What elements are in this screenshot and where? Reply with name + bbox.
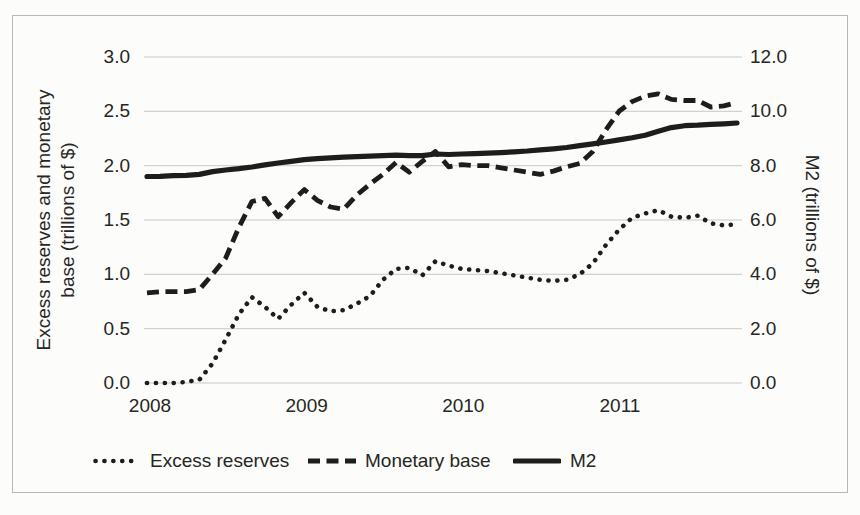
left-axis-title-line2: base (trillions of $): [56, 30, 80, 410]
left-axis-tick-label: 0.0: [84, 372, 130, 394]
left-axis-tick-label: 2.5: [84, 100, 130, 122]
right-axis-tick-label: 4.0: [750, 263, 808, 285]
legend-dashed-line-icon: [308, 455, 356, 467]
legend-item-m2: M2: [513, 449, 596, 473]
left-axis-tick-label: 3.0: [84, 46, 130, 68]
x-axis-tick-label: 2010: [418, 395, 508, 417]
right-axis-tick-label: 12.0: [750, 46, 808, 68]
left-axis-title-line1: Excess reserves and monetary: [32, 30, 56, 410]
series-line-m2: [147, 123, 737, 177]
left-axis-tick-label: 1.5: [84, 209, 130, 231]
left-axis-tick-label: 2.0: [84, 155, 130, 177]
legend-dotted-line-icon: [93, 455, 141, 467]
legend-solid-line-icon: [513, 455, 561, 467]
chart-figure: Excess reserves and monetary base (trill…: [0, 0, 860, 515]
legend-label-excess-reserves: Excess reserves: [150, 449, 289, 473]
left-axis-title: Excess reserves and monetary base (trill…: [32, 30, 80, 410]
right-axis-tick-label: 2.0: [750, 318, 808, 340]
left-axis-tick-label: 0.5: [84, 318, 130, 340]
right-axis-tick-label: 6.0: [750, 209, 808, 231]
x-axis-tick-label: 2009: [262, 395, 352, 417]
legend-label-monetary-base: Monetary base: [365, 449, 491, 473]
legend-item-monetary-base: Monetary base: [308, 449, 491, 473]
right-axis-tick-label: 10.0: [750, 100, 808, 122]
left-axis-tick-label: 1.0: [84, 263, 130, 285]
right-axis-tick-label: 8.0: [750, 155, 808, 177]
x-axis-tick-label: 2008: [105, 395, 195, 417]
x-axis-tick-label: 2011: [575, 395, 665, 417]
legend-label-m2: M2: [570, 449, 596, 473]
right-axis-tick-label: 0.0: [750, 372, 808, 394]
chart-plot-area: [0, 0, 860, 515]
legend-item-excess-reserves: Excess reserves: [93, 449, 289, 473]
